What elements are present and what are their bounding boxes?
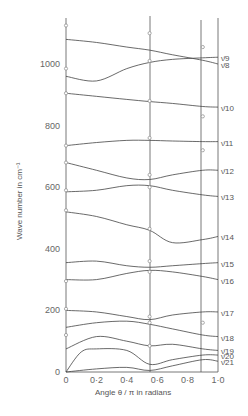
x-tick: 0·6 bbox=[151, 375, 164, 385]
x-tick: 0·8 bbox=[181, 375, 194, 385]
y-tick: 200 bbox=[45, 305, 60, 315]
x-tick: 0 bbox=[63, 375, 68, 385]
mode-label: ν̄13 bbox=[221, 193, 234, 202]
observed-point bbox=[64, 209, 67, 212]
x-tick: 1·0 bbox=[211, 375, 224, 385]
x-tick: 0·4 bbox=[120, 375, 133, 385]
observed-point bbox=[148, 227, 151, 230]
observed-point bbox=[148, 270, 151, 273]
mode-label: ν̄15 bbox=[221, 260, 234, 269]
observed-point bbox=[64, 67, 67, 70]
mode-label: ν̄11 bbox=[221, 139, 234, 148]
curve-8 bbox=[66, 39, 218, 64]
y-tick: 600 bbox=[45, 182, 60, 192]
curve-9 bbox=[66, 57, 218, 81]
mode-label: ν̄12 bbox=[221, 167, 234, 176]
observed-point bbox=[64, 189, 67, 192]
y-tick: 0 bbox=[55, 367, 60, 377]
y-tick: 1000 bbox=[40, 59, 60, 69]
curve-17 bbox=[66, 310, 218, 319]
observed-point bbox=[201, 321, 204, 324]
curve-12 bbox=[66, 163, 218, 180]
curve-16 bbox=[66, 270, 218, 280]
curve-20 bbox=[66, 349, 218, 372]
observed-point bbox=[201, 115, 204, 118]
curve-14 bbox=[66, 212, 218, 243]
observed-points bbox=[64, 24, 204, 348]
observed-point bbox=[64, 144, 67, 147]
observed-point bbox=[201, 149, 204, 152]
observed-point bbox=[64, 280, 67, 283]
mode-labels: ν̄8ν̄9ν̄10ν̄11ν̄12ν̄13ν̄14ν̄15ν̄16ν̄17ν̄… bbox=[221, 54, 234, 367]
observed-point bbox=[148, 344, 151, 347]
curve-10 bbox=[66, 93, 218, 107]
observed-point bbox=[148, 260, 151, 263]
observed-point bbox=[64, 307, 67, 310]
y-axis-label: Wave number in cm⁻¹ bbox=[15, 162, 24, 240]
y-tick: 800 bbox=[45, 121, 60, 131]
curve-18 bbox=[66, 321, 218, 336]
mode-label: ν̄9 bbox=[221, 54, 230, 63]
mode-label: ν̄10 bbox=[221, 104, 234, 113]
wave-number-chart: ν̄8ν̄9ν̄10ν̄11ν̄12ν̄13ν̄14ν̄15ν̄16ν̄17ν̄… bbox=[0, 0, 248, 416]
observed-point bbox=[148, 315, 151, 318]
curve-13 bbox=[66, 185, 218, 196]
y-tick-labels: 02004006008001000 bbox=[40, 59, 60, 377]
observed-point bbox=[148, 173, 151, 176]
observed-point bbox=[148, 321, 151, 324]
x-axis-label: Angle θ / π in radians bbox=[95, 388, 171, 397]
observed-point bbox=[64, 24, 67, 27]
mode-label: ν̄14 bbox=[221, 233, 234, 242]
curve-15 bbox=[66, 261, 218, 267]
observed-point bbox=[64, 161, 67, 164]
observed-point bbox=[148, 59, 151, 62]
curve-19 bbox=[66, 336, 218, 350]
observed-point bbox=[64, 333, 67, 336]
mode-label: ν̄18 bbox=[221, 334, 234, 343]
mode-label: ν̄16 bbox=[221, 277, 234, 286]
observed-point bbox=[64, 92, 67, 95]
curve-21 bbox=[66, 360, 218, 372]
mode-label: ν̄21 bbox=[221, 358, 234, 367]
curve-11 bbox=[66, 140, 218, 145]
observed-point bbox=[201, 45, 204, 48]
observed-point bbox=[148, 99, 151, 102]
x-tick: 0·2 bbox=[90, 375, 103, 385]
y-tick: 400 bbox=[45, 244, 60, 254]
dispersion-curves bbox=[66, 39, 218, 372]
mode-label: ν̄17 bbox=[221, 309, 234, 318]
x-tick-labels: 00·20·40·60·81·0 bbox=[63, 375, 224, 385]
observed-point bbox=[148, 136, 151, 139]
observed-point bbox=[148, 32, 151, 35]
observed-point bbox=[148, 186, 151, 189]
